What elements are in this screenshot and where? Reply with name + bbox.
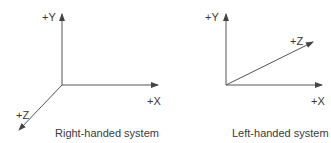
left-handed-axes xyxy=(226,14,322,85)
right-x-label: +X xyxy=(147,96,161,107)
left-y-label: +Y xyxy=(205,12,219,23)
right-z-label: +Z xyxy=(16,110,29,121)
left-handed-caption: Left-handed system xyxy=(232,128,329,139)
right-handed-axes xyxy=(19,14,158,130)
left-z-axis xyxy=(226,42,313,85)
right-y-label: +Y xyxy=(42,12,56,23)
left-x-label: +X xyxy=(311,96,325,107)
right-z-axis xyxy=(19,85,62,130)
left-z-label: +Z xyxy=(290,36,303,47)
right-handed-caption: Right-handed system xyxy=(55,128,159,139)
